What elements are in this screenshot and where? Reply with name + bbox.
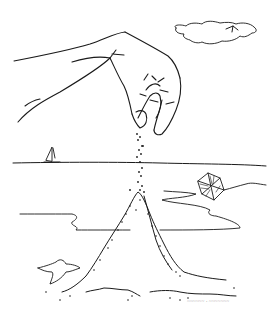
sand-pile	[62, 192, 236, 296]
cloud	[175, 21, 256, 44]
hand	[14, 32, 181, 135]
starfish	[38, 260, 80, 284]
sailboat	[44, 147, 60, 162]
artist-signature: ~~~~~~ · ~~~~~~~	[187, 299, 229, 304]
bird	[226, 26, 238, 32]
horizon	[13, 162, 266, 166]
illustration	[0, 0, 280, 325]
kite	[198, 173, 266, 200]
